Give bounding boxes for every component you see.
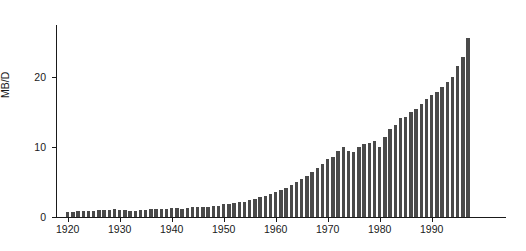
bar <box>404 117 407 217</box>
x-tick-mark <box>432 218 433 222</box>
bar <box>92 211 95 217</box>
bar <box>435 92 438 217</box>
x-tick-mark <box>380 218 381 222</box>
y-tick-label: 0 <box>12 212 46 222</box>
bar <box>316 168 319 217</box>
bar <box>258 197 261 217</box>
bar <box>305 176 308 217</box>
bar <box>87 211 90 217</box>
bar <box>326 159 329 217</box>
bar <box>144 210 147 217</box>
x-tick-label: 1980 <box>360 224 400 235</box>
bar <box>269 194 272 217</box>
x-axis-line <box>56 217 506 218</box>
bar <box>446 82 449 217</box>
bar <box>425 99 428 217</box>
bar <box>399 118 402 217</box>
bar <box>154 209 157 217</box>
bar <box>284 188 287 217</box>
bar <box>383 137 386 217</box>
bar <box>310 172 313 217</box>
y-tick-label: 10 <box>12 142 46 152</box>
bar <box>279 190 282 217</box>
bar <box>440 87 443 217</box>
y-tick-label: 20 <box>12 72 46 82</box>
bar <box>274 192 277 217</box>
bar <box>290 185 293 217</box>
bar <box>253 199 256 217</box>
bar <box>134 211 137 217</box>
bar <box>243 202 246 217</box>
bar <box>201 207 204 217</box>
bar <box>97 210 100 217</box>
bar <box>170 208 173 217</box>
bar <box>191 207 194 217</box>
x-tick-mark <box>172 218 173 222</box>
x-tick-mark <box>224 218 225 222</box>
bar <box>232 203 235 217</box>
bar <box>357 147 360 217</box>
bar <box>456 66 459 217</box>
bar <box>362 144 365 217</box>
bar <box>175 208 178 217</box>
bar <box>414 109 417 218</box>
bar <box>139 210 142 217</box>
bar <box>118 210 121 217</box>
bar <box>451 77 454 217</box>
bar <box>264 196 267 217</box>
bar <box>196 207 199 217</box>
bar <box>217 206 220 217</box>
bar-series <box>56 25 506 217</box>
bar <box>113 209 116 217</box>
y-axis-title: MB/D <box>0 72 11 98</box>
bar <box>409 112 412 217</box>
bar <box>342 147 345 217</box>
bar <box>66 212 69 217</box>
x-tick-mark <box>328 218 329 222</box>
plot-area <box>56 25 506 217</box>
bar <box>82 211 85 217</box>
bar <box>394 125 397 217</box>
bar <box>102 210 105 217</box>
bar <box>165 209 168 217</box>
x-tick-label: 1990 <box>412 224 452 235</box>
bar <box>352 152 355 217</box>
x-tick-label: 1930 <box>100 224 140 235</box>
bar <box>430 95 433 217</box>
bar <box>336 151 339 217</box>
x-tick-label: 1940 <box>152 224 192 235</box>
bar <box>347 151 350 218</box>
bar <box>160 209 163 217</box>
bar <box>180 209 183 217</box>
bar <box>149 209 152 217</box>
bar <box>108 210 111 217</box>
bar <box>378 147 381 217</box>
x-tick-label: 1920 <box>48 224 88 235</box>
bar <box>368 143 371 217</box>
bar <box>466 38 469 217</box>
x-tick-label: 1950 <box>204 224 244 235</box>
bar <box>212 206 215 217</box>
bar <box>300 179 303 217</box>
bar <box>295 182 298 217</box>
bar <box>238 202 241 217</box>
x-tick-mark <box>276 218 277 222</box>
bar <box>123 210 126 217</box>
bar <box>128 211 131 217</box>
bar <box>321 164 324 217</box>
bar <box>248 200 251 217</box>
bar <box>420 104 423 217</box>
bar <box>186 208 189 217</box>
bar <box>388 129 391 217</box>
bar <box>222 204 225 217</box>
x-tick-label: 1970 <box>308 224 348 235</box>
bar <box>71 212 74 217</box>
bar <box>206 207 209 218</box>
bar <box>461 57 464 217</box>
bar <box>76 211 79 217</box>
bar <box>331 157 334 217</box>
x-tick-label: 1960 <box>256 224 296 235</box>
y-tick-mark <box>52 217 56 218</box>
x-tick-mark <box>120 218 121 222</box>
bar <box>227 204 230 217</box>
